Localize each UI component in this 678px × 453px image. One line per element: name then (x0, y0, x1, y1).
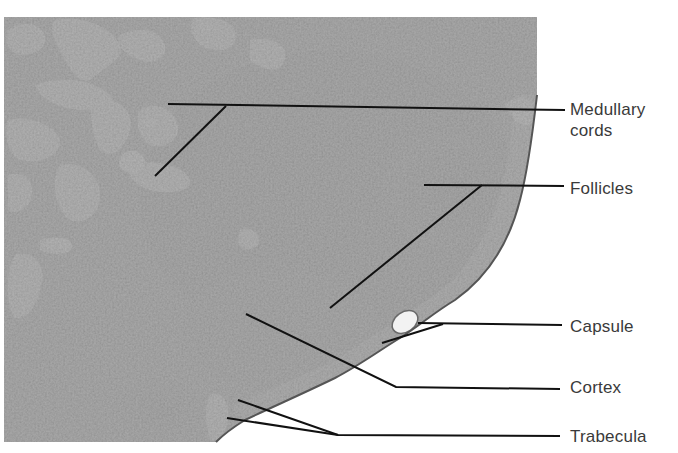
label-text: Trabecula (570, 426, 647, 447)
label-follicles: Follicles (570, 178, 633, 199)
label-text: cords (570, 120, 646, 141)
label-text: Medullary (570, 99, 646, 120)
label-medullary-cords: Medullary cords (570, 99, 646, 141)
leader-follicles (424, 185, 564, 186)
leader-trabecula-branch (227, 418, 338, 435)
label-cortex: Cortex (570, 377, 621, 398)
label-text: Follicles (570, 178, 633, 199)
label-trabecula: Trabecula (570, 426, 647, 447)
label-text: Capsule (570, 316, 634, 337)
label-text: Cortex (570, 377, 621, 398)
leader-trabecula (238, 400, 560, 436)
lymph-node-figure: Medullary cords Follicles Capsule Cortex… (0, 0, 678, 453)
label-capsule: Capsule (570, 316, 634, 337)
